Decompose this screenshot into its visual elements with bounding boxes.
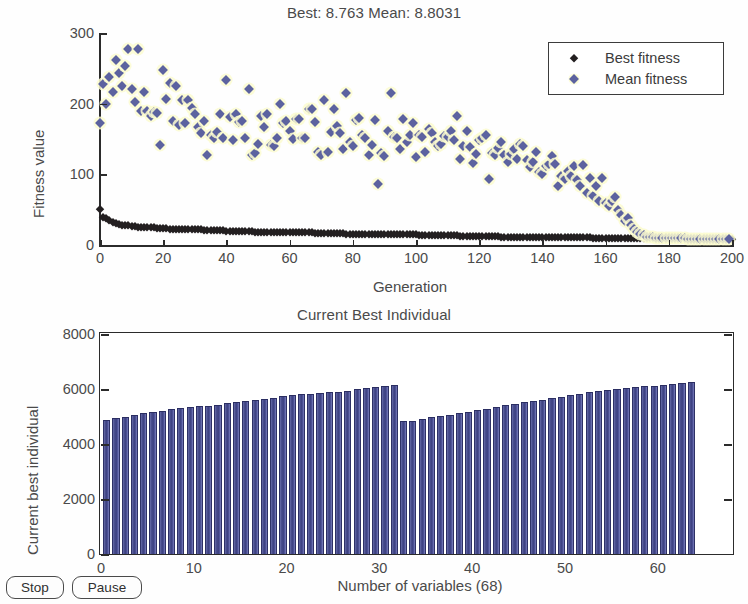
bar (548, 398, 555, 554)
bar-x-ticklabel: 40 (464, 560, 480, 576)
best-fitness-marker-icon (557, 51, 591, 65)
fitness-x-ticklabel: 120 (467, 250, 491, 266)
bar (437, 416, 444, 554)
fitness-plot-title: Best: 8.763 Mean: 8.8031 (0, 4, 748, 21)
fitness-y-ticklabel: 200 (58, 96, 94, 112)
bar (159, 411, 166, 554)
fitness-x-tick (669, 240, 671, 246)
bar (567, 395, 574, 554)
bar (521, 402, 528, 554)
bar-y-tick (101, 444, 109, 446)
bar (168, 409, 175, 554)
bar-y-ticklabel: 4000 (33, 436, 95, 452)
bar-plot-ylabel: Current best individual (24, 406, 41, 555)
fitness-x-tick (163, 240, 165, 246)
bar (502, 405, 509, 554)
bar-x-ticklabel: 50 (557, 560, 573, 576)
fitness-y-tick (100, 245, 107, 247)
bar (103, 420, 110, 554)
bar (511, 404, 518, 554)
bar-y-tick (101, 334, 109, 336)
bar (623, 388, 630, 554)
fitness-x-ticklabel: 60 (282, 250, 298, 266)
bar (279, 396, 286, 554)
fitness-x-tick (353, 240, 355, 246)
bar-y-tick (101, 389, 109, 391)
bar-plot-title: Current Best Individual (0, 306, 748, 323)
bar (632, 387, 639, 554)
bar (483, 409, 490, 554)
mean-fitness-marker-icon (557, 72, 591, 86)
bar (140, 413, 147, 554)
fitness-x-tick (606, 240, 608, 246)
bar (363, 388, 370, 554)
fitness-x-tick (542, 240, 544, 246)
bar (474, 410, 481, 554)
bar-plot-canvas (101, 334, 732, 554)
bar (465, 412, 472, 554)
bar (604, 390, 611, 554)
fitness-x-ticklabel: 40 (218, 250, 234, 266)
bar (242, 401, 249, 554)
bar (205, 406, 212, 554)
fitness-y-tick (100, 104, 107, 106)
fitness-x-tick (732, 240, 734, 246)
bar (289, 395, 296, 554)
bar (187, 407, 194, 554)
bar (586, 392, 593, 554)
fitness-x-ticklabel: 0 (96, 250, 104, 266)
bar (493, 407, 500, 554)
bar-y-tick-right (724, 389, 732, 391)
bar-y-tick (101, 554, 109, 556)
bar (316, 393, 323, 554)
bar-y-tick (101, 499, 109, 501)
fitness-x-ticklabel: 200 (720, 250, 744, 266)
bar-y-ticklabel: 2000 (33, 491, 95, 507)
bar (335, 392, 342, 554)
bar (131, 415, 138, 554)
bar (595, 391, 602, 554)
legend-row-mean: Mean fitness (557, 68, 713, 89)
bar (214, 405, 221, 555)
bar (530, 401, 537, 554)
fitness-x-ticklabel: 180 (657, 250, 681, 266)
bar (688, 382, 695, 554)
bar (233, 402, 240, 554)
bar (196, 406, 203, 554)
stop-button[interactable]: Stop (6, 576, 64, 599)
fitness-x-tick (416, 240, 418, 246)
bar (112, 418, 119, 554)
fitness-y-ticklabel: 0 (58, 237, 94, 253)
fitness-y-tick (100, 174, 107, 176)
bar (354, 389, 361, 554)
fitness-x-ticklabel: 100 (404, 250, 428, 266)
fitness-y-tick (100, 33, 107, 35)
bar (409, 421, 416, 554)
fitness-y-ticklabel: 300 (58, 25, 94, 41)
bar (261, 399, 268, 554)
bar (428, 417, 435, 554)
bar (669, 384, 676, 554)
bar (576, 394, 583, 554)
bar-x-ticklabel: 0 (97, 560, 105, 576)
pause-button[interactable]: Pause (72, 576, 142, 599)
bar (224, 403, 231, 554)
bar (372, 387, 379, 554)
bar-y-ticklabel: 6000 (33, 381, 95, 397)
bar (326, 392, 333, 554)
bar (122, 417, 129, 554)
bar (660, 385, 667, 554)
bar (307, 394, 314, 555)
bar (446, 415, 453, 554)
fitness-plot: Best: 8.763 Mean: 8.8031 Fitness value G… (0, 0, 748, 300)
best-fitness-point (96, 205, 104, 213)
bar (400, 421, 407, 554)
bar-plot-xlabel: Number of variables (68) (337, 577, 502, 594)
bar-x-ticklabel: 60 (650, 560, 666, 576)
bar-y-tick-right (724, 334, 732, 336)
bar (651, 386, 658, 554)
bar (558, 397, 565, 554)
bar (539, 400, 546, 554)
bar-y-tick-right (724, 499, 732, 501)
fitness-x-ticklabel: 160 (593, 250, 617, 266)
